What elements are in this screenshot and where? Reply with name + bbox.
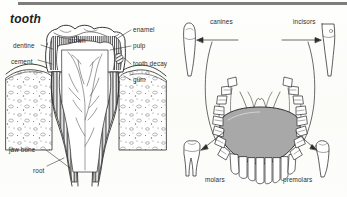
label-enamel: enamel xyxy=(133,27,155,33)
label-cement: cement xyxy=(11,59,33,65)
label-incisors: incisors xyxy=(293,19,315,25)
illustration-page: tooth xyxy=(0,0,347,197)
incisor-tooth-illustration xyxy=(322,24,335,76)
label-pulp: pulp xyxy=(133,43,145,49)
label-canines: canines xyxy=(210,19,233,25)
label-molars: molars xyxy=(205,177,225,183)
tooth-cross-section-artwork xyxy=(0,0,347,197)
tooth-decay-spot xyxy=(116,53,123,63)
canine-tooth-illustration xyxy=(184,23,196,76)
label-tooth-decay: tooth decay xyxy=(133,61,167,67)
molar-tooth-illustration xyxy=(184,141,200,176)
label-dentine: dentine xyxy=(13,43,35,49)
label-root: root xyxy=(33,168,44,174)
label-crown: crown xyxy=(68,38,86,44)
premolar-tooth-illustration xyxy=(316,141,329,177)
lower-jaw-arch-artwork xyxy=(184,23,335,184)
label-jaw-bone: jaw bone xyxy=(9,147,35,153)
label-gum: gum xyxy=(133,77,146,83)
label-premolars: premolars xyxy=(283,177,312,183)
